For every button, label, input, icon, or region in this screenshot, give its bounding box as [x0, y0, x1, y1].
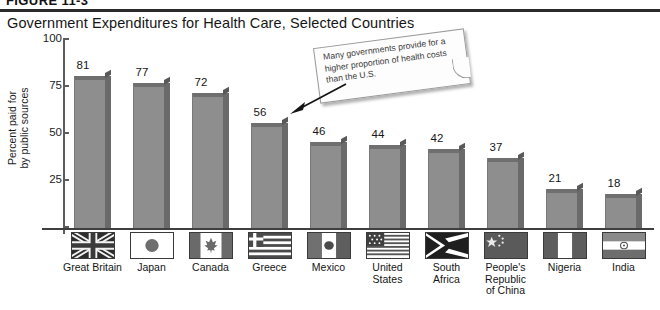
flag-nigeria-icon: [543, 232, 587, 259]
bar-side-face: [223, 93, 229, 228]
bar-top-face: [252, 123, 282, 127]
figure-container: FIGURE 11-3 Government Expenditures for …: [0, 0, 660, 310]
y-tick-label-75: 75: [36, 80, 62, 92]
bar-top-face: [429, 149, 459, 153]
x-category-label: India: [594, 262, 653, 274]
bar[interactable]: [133, 83, 164, 228]
bar-side-face: [636, 194, 642, 228]
bar-slot: 37: [476, 30, 535, 229]
bar-side-face: [105, 76, 111, 228]
bar-slot: 81: [63, 30, 122, 229]
bar[interactable]: [251, 123, 282, 228]
y-axis-title-line2: by public sources: [18, 58, 30, 198]
x-category-label: Greece: [240, 262, 299, 274]
x-category: Greece: [240, 232, 299, 274]
x-category-label-line: Mexico: [299, 262, 358, 274]
flag-greece-icon: [248, 232, 292, 259]
bar-value-label: 37: [470, 141, 522, 153]
bar[interactable]: [428, 149, 459, 228]
x-category: India: [594, 232, 653, 274]
y-tick-label-25: 25: [36, 174, 62, 186]
x-category-label-line: Greece: [240, 262, 299, 274]
y-axis-title-line1: Percent paid for: [6, 58, 18, 198]
bar-top-face: [193, 93, 223, 97]
flag-united-states-icon: [366, 232, 410, 259]
x-category-label: Japan: [122, 262, 181, 274]
bar[interactable]: [605, 194, 636, 228]
bar-side-face: [282, 123, 288, 228]
bar-value-label: 21: [529, 172, 581, 184]
bar-top-face: [547, 189, 577, 193]
flag-mexico-icon: [307, 232, 351, 259]
bar-top-face: [75, 76, 105, 80]
x-category: Mexico: [299, 232, 358, 274]
bar-top-face: [606, 194, 636, 198]
bar-slot: 18: [594, 30, 653, 229]
bar-top-face: [134, 83, 164, 87]
x-category-label: Canada: [181, 262, 240, 274]
x-category-label: SouthAfrica: [417, 262, 476, 285]
x-category-label-line: Nigeria: [535, 262, 594, 274]
x-category: Japan: [122, 232, 181, 274]
bar-value-label: 18: [588, 177, 640, 189]
x-category-label-line: India: [594, 262, 653, 274]
bar-top-face: [311, 142, 341, 146]
bar-slot: 72: [181, 30, 240, 229]
bar-value-label: 44: [352, 128, 404, 140]
x-category: Great Britain: [63, 232, 122, 274]
x-category: Nigeria: [535, 232, 594, 274]
bar-side-face: [164, 83, 170, 228]
x-category-label: UnitedStates: [358, 262, 417, 285]
bar-side-face: [577, 189, 583, 228]
y-tick-label-50: 50: [36, 127, 62, 139]
bar-side-face: [518, 158, 524, 228]
bar-side-face: [459, 149, 465, 228]
bar-value-label: 42: [411, 132, 463, 144]
x-category: SouthAfrica: [417, 232, 476, 285]
flag-japan-icon: [130, 232, 174, 259]
figure-label: FIGURE 11-3: [6, 0, 88, 8]
x-category-label: Nigeria: [535, 262, 594, 274]
bar[interactable]: [310, 142, 341, 228]
bar[interactable]: [487, 158, 518, 228]
bar-slot: 77: [122, 30, 181, 229]
x-category: Canada: [181, 232, 240, 274]
x-category: People'sRepublicof China: [476, 232, 535, 297]
x-category-label: People'sRepublicof China: [476, 262, 535, 297]
bar-side-face: [341, 142, 347, 228]
x-category-label: Great Britain: [63, 262, 122, 274]
callout-arrow-icon: [286, 82, 348, 116]
bar-value-label: 77: [116, 66, 168, 78]
bottom-crop-mask: [0, 296, 660, 310]
bar[interactable]: [74, 76, 105, 228]
x-category-label-line: South: [417, 262, 476, 274]
x-category-label-line: Africa: [417, 274, 476, 286]
x-category-label-line: People's: [476, 262, 535, 274]
bar[interactable]: [369, 145, 400, 228]
x-category-label: Mexico: [299, 262, 358, 274]
bar-slot: 21: [535, 30, 594, 229]
bar-side-face: [400, 145, 406, 228]
x-category-label-line: Canada: [181, 262, 240, 274]
bar-value-label: 72: [175, 76, 227, 88]
flag-great-britain-icon: [71, 232, 115, 259]
x-category-label-line: Great Britain: [63, 262, 122, 274]
flag-india-icon: [602, 232, 646, 259]
bar-slot: 56: [240, 30, 299, 229]
x-category-label-line: of China: [476, 285, 535, 297]
bar-value-label: 56: [234, 106, 286, 118]
flag-south-africa-icon: [425, 232, 469, 259]
bar-value-label: 81: [57, 59, 109, 71]
bar[interactable]: [192, 93, 223, 228]
header-rule: [0, 9, 660, 12]
bar-top-face: [370, 145, 400, 149]
x-category-label-line: Japan: [122, 262, 181, 274]
y-axis-title: Percent paid for by public sources: [6, 58, 30, 198]
bar-top-face: [488, 158, 518, 162]
y-tick-label-100: 100: [36, 33, 62, 45]
x-category-label-line: United: [358, 262, 417, 274]
chart-title: Government Expenditures for Health Care,…: [7, 15, 414, 31]
bar-value-label: 46: [293, 125, 345, 137]
bar[interactable]: [546, 189, 577, 228]
flag-china-icon: [484, 232, 528, 259]
